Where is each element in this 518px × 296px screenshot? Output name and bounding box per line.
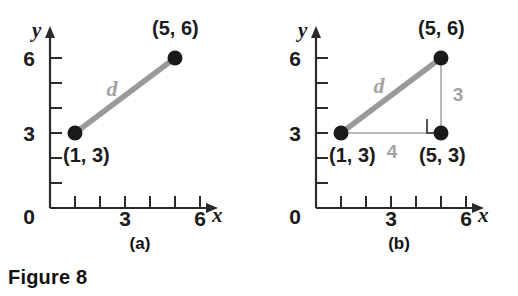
panel-b-y-axis-label: y [295,18,308,42]
panel-a-y-axis-arrow [45,26,55,38]
panel-a-point-1-3-label: (1, 3) [63,144,110,166]
panel-b-point-1-3 [334,126,349,141]
panel-a-x-ticks [75,196,200,208]
panel-a-segment-d-label: d [107,76,119,101]
panel-b-y-tick-3: 3 [289,122,301,145]
panel-a-y-ticks [50,58,62,183]
panel-b-point-5-3-label: (5, 3) [419,144,466,166]
panel-b-x-ticks [341,196,466,208]
panel-a-y-tick-6: 6 [23,47,35,70]
panel-b-x-tick-3: 3 [385,207,397,230]
panel-a-segment-d [75,58,175,133]
panel-b-point-5-3 [434,126,449,141]
panel-b-y-ticks [316,58,328,183]
panel-b-x-tick-6: 6 [460,207,472,230]
panel-b-origin-label: 0 [289,205,301,228]
panel-a-y-axis-label: y [29,18,42,42]
panel-a-graph: y x 6 3 0 3 6 [0,0,259,232]
panel-a-point-5-6 [168,51,183,66]
panel-a-point-1-3 [68,126,83,141]
panel-a-origin-label: 0 [23,205,35,228]
panel-a-x-tick-3: 3 [119,207,131,230]
panel-b-segment-d-label: d [374,73,386,98]
panel-a-y-tick-3: 3 [23,122,35,145]
panel-a-point-5-6-label: (5, 6) [152,17,199,39]
panel-b-leg-horizontal-label: 4 [387,141,398,162]
panel-a-x-tick-6: 6 [194,207,206,230]
panel-b-y-tick-6: 6 [289,47,301,70]
figure-caption: Figure 8 [8,266,87,289]
panel-b-segment-d [341,58,441,133]
panel-b-caption: (b) [359,234,439,254]
panel-b-y-axis-arrow [311,26,321,38]
panel-b-graph: y x 6 3 0 3 6 [259,0,518,232]
panel-b-point-1-3-label: (1, 3) [329,144,376,166]
panel-b-point-5-6-label: (5, 6) [418,17,465,39]
panel-b-leg-vertical-label: 3 [453,84,464,105]
panel-a-caption: (a) [100,234,180,254]
panel-b-point-5-6 [434,51,449,66]
figure-8-container: y x 6 3 0 3 6 [0,0,518,296]
